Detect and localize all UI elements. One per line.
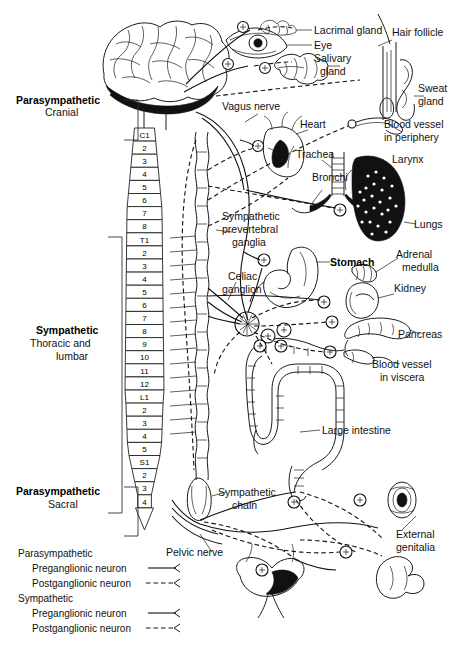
- vertebral-label-L1: L1: [140, 393, 149, 402]
- vertebral-label-3: 3: [142, 484, 147, 493]
- vertebral-label-8: 8: [142, 327, 147, 336]
- label-sympathetic-chain-1: Sympathetic: [218, 486, 276, 498]
- label-heart: Heart: [300, 118, 326, 130]
- label-blood-vessel-periphery-1: Blood vessel: [384, 118, 444, 130]
- vertebral-label-2: 2: [142, 144, 147, 153]
- label-trachea: Trachea: [296, 148, 334, 160]
- legend-heading-parasympathetic: Parasympathetic: [18, 548, 92, 559]
- label-stomach: Stomach: [330, 256, 374, 268]
- label-adrenal-medulla-1: Adrenal: [396, 248, 432, 260]
- label-celiac-ganglion-2: ganglion: [222, 283, 262, 295]
- label-sweat-gland-1: Sweat: [418, 82, 447, 94]
- division-sub-sacral: Sacral: [48, 498, 78, 510]
- label-sympathetic-chain-2: chain: [232, 499, 257, 511]
- vertebral-label-2: 2: [142, 471, 147, 480]
- label-lacrimal-gland: Lacrimal gland: [314, 24, 382, 36]
- vertebral-label-5: 5: [142, 183, 147, 192]
- division-label-parasympathetic-sacral: Parasympathetic: [16, 485, 100, 497]
- vertebral-label-7: 7: [142, 209, 147, 218]
- label-vagus-nerve: Vagus nerve: [222, 100, 280, 112]
- vertebral-label-3: 3: [142, 262, 147, 271]
- vertebral-label-4: 4: [142, 275, 147, 284]
- label-prevertebral-ganglia-3: ganglia: [232, 236, 266, 248]
- label-salivary-gland-2: gland: [320, 65, 346, 77]
- vertebral-label-10: 10: [140, 353, 149, 362]
- vertebral-label-4: 4: [142, 432, 147, 441]
- vertebral-label-4: 4: [142, 170, 147, 179]
- vertebral-label-3: 3: [142, 157, 147, 166]
- vertebral-label-3: 3: [142, 419, 147, 428]
- vertebral-label-12: 12: [140, 380, 149, 389]
- vertebral-label-T1: T1: [140, 236, 150, 245]
- label-prevertebral-ganglia-1: Sympathetic: [222, 210, 280, 222]
- vertebral-label-7: 7: [142, 314, 147, 323]
- vertebral-label-11: 11: [140, 367, 149, 376]
- label-bronchi: Bronchi: [312, 171, 348, 183]
- label-celiac-ganglion-1: Celiac: [228, 270, 257, 282]
- vertebral-label-9: 9: [142, 340, 147, 349]
- vertebral-label-S1: S1: [140, 458, 150, 467]
- label-blood-vessel-viscera-2: in viscera: [380, 371, 425, 383]
- label-pelvic-nerve: Pelvic nerve: [166, 546, 223, 558]
- label-eye: Eye: [314, 39, 332, 51]
- autonomic-nervous-system-diagram: C12345678T123456789101112L12345S1234: [0, 0, 461, 652]
- division-label-sympathetic: Sympathetic: [36, 324, 99, 336]
- vertebral-label-C1: C1: [139, 131, 150, 140]
- label-prevertebral-ganglia-2: prevertebral: [222, 223, 278, 235]
- label-blood-vessel-viscera-1: Blood vessel: [372, 358, 432, 370]
- label-hair-follicle: Hair follicle: [392, 26, 444, 38]
- division-label-parasympathetic-cranial: Parasympathetic: [16, 94, 100, 106]
- division-sub-lumbar: lumbar: [56, 350, 89, 362]
- diagram-canvas: C12345678T123456789101112L12345S1234: [0, 0, 461, 652]
- vertebral-label-4: 4: [142, 498, 147, 507]
- label-lungs: Lungs: [414, 218, 443, 230]
- label-salivary-gland-1: Salivary: [314, 52, 352, 64]
- vertebral-label-5: 5: [142, 288, 147, 297]
- vertebral-label-8: 8: [142, 222, 147, 231]
- label-pancreas: Pancreas: [398, 328, 442, 340]
- label-external-genitalia-2: genitalia: [396, 541, 435, 553]
- label-large-intestine: Large intestine: [322, 424, 391, 436]
- label-blood-vessel-periphery-2: in periphery: [384, 131, 440, 143]
- vertebral-label-6: 6: [142, 196, 147, 205]
- vertebral-label-6: 6: [142, 301, 147, 310]
- vertebral-label-2: 2: [142, 249, 147, 258]
- legend-heading-sympathetic: Sympathetic: [18, 593, 73, 604]
- legend-label-symp-pre: Preganglionic neuron: [32, 608, 127, 619]
- label-kidney: Kidney: [394, 282, 427, 294]
- label-larynx: Larynx: [392, 153, 424, 165]
- label-adrenal-medulla-2: medulla: [402, 261, 439, 273]
- legend-label-para-post: Postganglionic neuron: [32, 578, 131, 589]
- label-sweat-gland-2: gland: [418, 95, 444, 107]
- label-external-genitalia-1: External: [396, 528, 435, 540]
- division-sub-cranial: Cranial: [45, 106, 78, 118]
- legend-label-symp-post: Postganglionic neuron: [32, 623, 131, 634]
- legend-label-para-pre: Preganglionic neuron: [32, 563, 127, 574]
- vertebral-label-5: 5: [142, 445, 147, 454]
- vertebral-label-2: 2: [142, 406, 147, 415]
- division-sub-thoracic: Thoracic and: [30, 337, 91, 349]
